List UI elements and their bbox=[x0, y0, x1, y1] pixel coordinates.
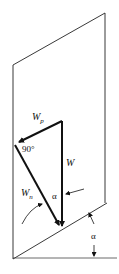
normal-sub-text: n bbox=[29, 193, 33, 201]
normal-component-label: Wn bbox=[21, 188, 33, 201]
incline-angle-label: α bbox=[91, 232, 96, 241]
angle-arc-left-icon bbox=[22, 204, 42, 224]
right-angle-label: 90° bbox=[22, 145, 35, 154]
weight-label: W bbox=[66, 158, 74, 168]
incline-angle-arrow-top-icon bbox=[89, 213, 94, 224]
parallel-sub-text: p bbox=[40, 117, 44, 125]
inner-angle-label: α bbox=[52, 192, 57, 201]
force-triangle bbox=[15, 121, 62, 226]
normal-component-arrow bbox=[15, 145, 59, 225]
parallel-component-label: Wp bbox=[32, 112, 44, 125]
diagram-canvas bbox=[0, 0, 119, 274]
angle-pointer-right-icon bbox=[66, 189, 84, 194]
inclined-plane-force-diagram: Wp 90° W Wn α α bbox=[0, 0, 119, 274]
